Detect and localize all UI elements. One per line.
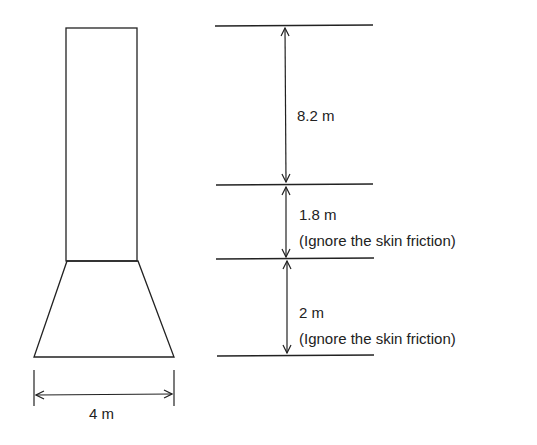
base-dim-arrow [36, 394, 172, 395]
segment-3-note: (Ignore the skin friction) [299, 330, 456, 348]
segment-1-arrow [285, 28, 286, 182]
pier-shaft [66, 28, 137, 261]
pier-bell [34, 261, 174, 357]
base-width-label: 4 m [89, 405, 114, 423]
level-line-2 [216, 184, 373, 185]
segment-1-length: 8.2 m [297, 107, 335, 125]
level-line-bottom [217, 355, 374, 356]
segment-2-length: 1.8 m [299, 206, 337, 224]
segment-3-length: 2 m [299, 304, 324, 322]
level-line-3 [216, 258, 374, 259]
pier-diagram [0, 0, 537, 445]
level-line-top [215, 25, 373, 26]
segment-2-note: (Ignore the skin friction) [299, 232, 456, 250]
